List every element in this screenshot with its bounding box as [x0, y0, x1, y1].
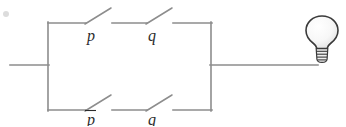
switch-label-q-top: q: [148, 27, 156, 45]
switch-label-p-bottom: p: [86, 111, 95, 126]
circuit-diagram-svg: p q p q: [0, 0, 346, 126]
bulb-glass: [306, 16, 338, 49]
switch-label-p-negated-group: p: [85, 111, 96, 127]
light-bulb: [306, 16, 338, 62]
switch-q-top-blade[interactable]: [146, 8, 172, 24]
switch-p-negated-blade[interactable]: [85, 95, 111, 111]
top-branch: [48, 8, 212, 24]
circuit-diagram-figure: p q p q: [0, 0, 346, 126]
switch-p-blade[interactable]: [85, 8, 111, 24]
switch-label-q-bottom: q: [148, 111, 156, 126]
switch-q-bottom-blade[interactable]: [146, 95, 172, 111]
switch-label-p-top: p: [86, 27, 95, 45]
bottom-branch: [48, 95, 212, 111]
scan-speck: [3, 11, 9, 17]
